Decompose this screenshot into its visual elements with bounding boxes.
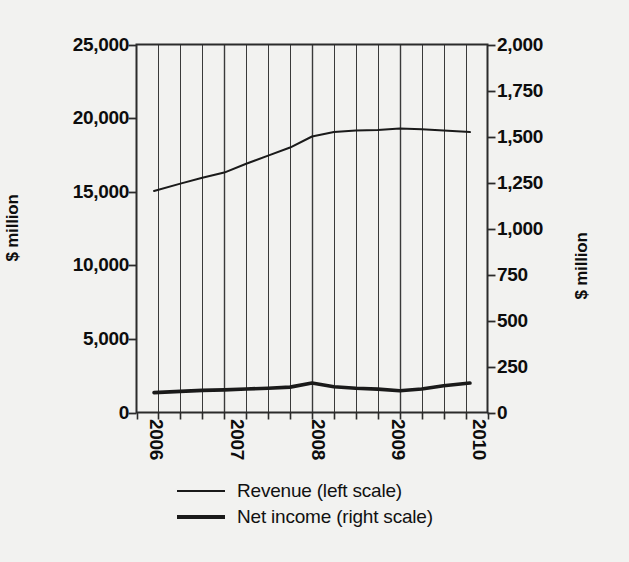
x-axis-tick-2009: 2009 — [387, 419, 409, 460]
y-axis-right-tick-250: 250 — [497, 356, 528, 378]
y-axis-left-tick-0: 0 — [119, 402, 129, 424]
y-axis-right-tick-1250: 1,250 — [497, 172, 543, 194]
y-axis-right-tick-2000: 2,000 — [497, 34, 543, 56]
y-axis-right-tick-1750: 1,750 — [497, 80, 543, 102]
y-axis-right-tick-1500: 1,500 — [497, 126, 543, 148]
x-axis-tick-2007: 2007 — [226, 419, 248, 460]
plot-frame — [137, 45, 488, 413]
y-axis-right-title: $ million — [572, 232, 592, 299]
y-axis-left-title: $ million — [3, 194, 23, 261]
legend-label-net-income: Net income (right scale) — [227, 506, 433, 528]
y-axis-left-tick-25000: 25,000 — [73, 34, 129, 56]
y-axis-right-tick-750: 750 — [497, 264, 528, 286]
legend-item-net-income: Net income (right scale) — [175, 504, 505, 530]
y-axis-left-tick-5000: 5,000 — [83, 328, 129, 350]
y-axis-right-tick-1000: 1,000 — [497, 218, 543, 240]
x-axis-tick-2010: 2010 — [468, 419, 490, 460]
axis-ticks — [129, 46, 496, 420]
y-axis-left-tick-10000: 10,000 — [73, 254, 129, 276]
x-axis-tick-2006: 2006 — [145, 419, 167, 460]
series-line-revenue — [154, 128, 470, 191]
chart-legend: Revenue (left scale) Net income (right s… — [175, 478, 505, 530]
x-axis-tick-2008: 2008 — [307, 419, 329, 460]
gridlines — [159, 45, 467, 413]
y-axis-left-tick-15000: 15,000 — [73, 181, 129, 203]
y-axis-right-tick-0: 0 — [497, 402, 507, 424]
legend-line-icon-revenue — [175, 490, 227, 492]
series-line-net-income — [154, 383, 470, 393]
y-axis-left-tick-20000: 20,000 — [73, 107, 129, 129]
legend-item-revenue: Revenue (left scale) — [175, 478, 505, 504]
y-axis-right-tick-500: 500 — [497, 310, 528, 332]
chart-container: $ million $ million 0 5,000 10,000 15,00… — [0, 0, 629, 562]
legend-line-icon-net-income — [175, 515, 227, 519]
legend-label-revenue: Revenue (left scale) — [227, 480, 402, 502]
